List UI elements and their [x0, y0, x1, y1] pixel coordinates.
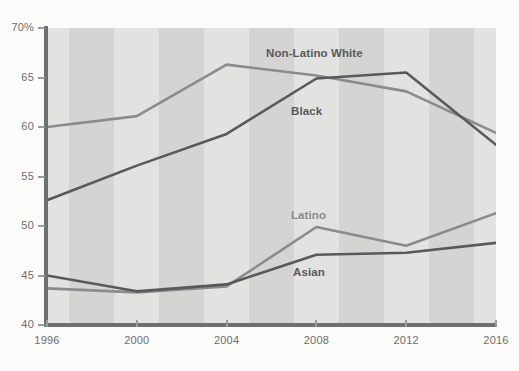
series-line-non-latino-white — [47, 65, 496, 133]
y-tick-label: 50 — [0, 219, 34, 231]
y-tick-label: 40 — [0, 318, 34, 330]
x-tick-label: 1996 — [24, 334, 70, 346]
series-label-non-latino-white: Non-Latino White — [266, 47, 363, 59]
series-line-black — [47, 73, 496, 201]
y-tick-mark — [38, 176, 45, 178]
series-line-asian — [47, 243, 496, 292]
y-tick-label: 45 — [0, 269, 34, 281]
x-tick-mark — [226, 320, 228, 327]
line-chart: 40455055606570% 199620002004200820122016… — [0, 0, 519, 371]
x-tick-label: 2004 — [204, 334, 250, 346]
series-label-black: Black — [291, 105, 322, 117]
y-tick-label: 65 — [0, 71, 34, 83]
plot-area — [47, 28, 496, 325]
x-tick-label: 2012 — [383, 334, 429, 346]
series-line-latino — [47, 213, 496, 292]
x-tick-mark — [315, 320, 317, 327]
y-tick-mark — [38, 275, 45, 277]
y-tick-mark — [38, 126, 45, 128]
y-tick-mark — [38, 27, 45, 29]
x-tick-label: 2008 — [293, 334, 339, 346]
x-axis — [44, 323, 496, 327]
x-tick-mark — [405, 320, 407, 327]
series-label-asian: Asian — [293, 266, 325, 278]
y-tick-label: 55 — [0, 170, 34, 182]
y-tick-mark — [38, 324, 45, 326]
y-tick-label: 60 — [0, 120, 34, 132]
x-tick-label: 2000 — [114, 334, 160, 346]
series-lines — [47, 28, 496, 325]
y-tick-mark — [38, 77, 45, 79]
y-tick-label: 70% — [0, 21, 34, 33]
y-tick-mark — [38, 225, 45, 227]
series-label-latino: Latino — [291, 209, 326, 221]
x-tick-mark — [495, 320, 497, 327]
x-tick-mark — [46, 320, 48, 327]
x-tick-label: 2016 — [473, 334, 519, 346]
x-tick-mark — [136, 320, 138, 327]
